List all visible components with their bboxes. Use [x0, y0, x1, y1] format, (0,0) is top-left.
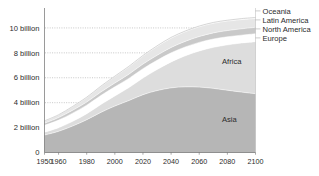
y-tick-label-10: 10 billion	[10, 24, 40, 33]
x-tick-label-2100: 2100	[248, 157, 264, 166]
x-tick-label-2000: 2000	[107, 157, 123, 166]
x-tick-label-2080: 2080	[219, 157, 235, 166]
y-tick-label-6: 6 billion	[14, 73, 40, 82]
area-label-asia: Asia	[222, 115, 238, 124]
area-label-africa: Africa	[222, 57, 242, 66]
legend-label-north-america: North America	[263, 25, 312, 34]
y-tick-label-4: 4 billion	[14, 98, 40, 107]
legend-label-latin-america: Latin America	[263, 16, 310, 25]
x-tick-label-2060: 2060	[191, 157, 207, 166]
x-tick-label-2020: 2020	[135, 157, 151, 166]
chart-canvas: 02 billion4 billion6 billion8 billion10 …	[0, 0, 319, 176]
legend-label-oceania: Oceania	[263, 7, 292, 16]
population-stacked-area-chart: 02 billion4 billion6 billion8 billion10 …	[0, 0, 319, 176]
x-tick-label-1960: 1960	[51, 157, 67, 166]
x-tick-label-2040: 2040	[163, 157, 179, 166]
y-tick-label-2: 2 billion	[14, 123, 40, 132]
y-tick-label-8: 8 billion	[14, 49, 40, 58]
x-tick-label-1980: 1980	[79, 157, 95, 166]
legend-label-europe: Europe	[263, 34, 288, 43]
